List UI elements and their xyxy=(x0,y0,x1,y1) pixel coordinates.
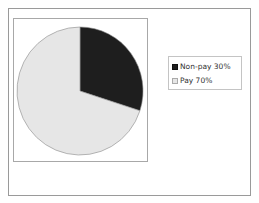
legend-swatch-pay xyxy=(172,78,178,84)
legend-label-pay: Pay 70% xyxy=(180,76,212,85)
legend-swatch-non-pay xyxy=(172,64,178,70)
legend: Non-pay 30% Pay 70% xyxy=(168,56,242,90)
pie-slices xyxy=(17,27,143,155)
legend-item-pay: Pay 70% xyxy=(172,76,212,85)
legend-item-non-pay: Non-pay 30% xyxy=(172,62,231,71)
pie-chart xyxy=(13,18,148,162)
legend-label-non-pay: Non-pay 30% xyxy=(180,62,231,71)
